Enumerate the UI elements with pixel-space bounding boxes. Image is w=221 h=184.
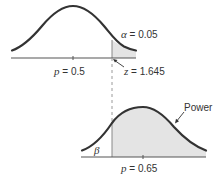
hypothesis-test-power-diagram: [0, 0, 221, 184]
null-mean-label: p = 0.5: [54, 66, 85, 77]
power-region-fill: [112, 107, 206, 157]
null-mean-value: = 0.5: [60, 66, 85, 77]
alpha-label: α = 0.05: [121, 29, 158, 40]
power-label: Power: [184, 103, 212, 113]
critical-value-label: z = 1.645: [124, 66, 165, 77]
alt-mean-value: = 0.65: [127, 163, 158, 174]
beta-label: β: [94, 145, 99, 156]
alt-mean-label: p = 0.65: [121, 163, 157, 174]
critical-value: = 1.645: [128, 66, 164, 77]
alpha-value: = 0.05: [127, 29, 158, 40]
